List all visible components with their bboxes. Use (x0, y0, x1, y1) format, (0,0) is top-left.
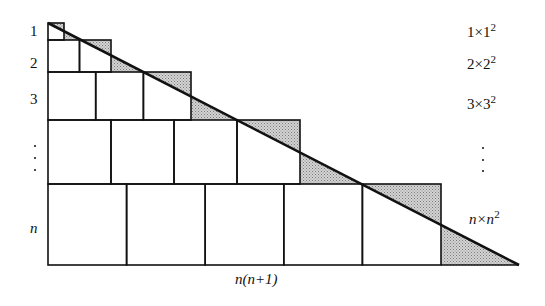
bottom-label: n(n+1) (235, 271, 278, 288)
row-n-squares (48, 184, 441, 265)
left-label-1: 1 (30, 23, 38, 39)
left-label-2: 2 (30, 55, 38, 71)
right-label-1: 1×12 (467, 21, 496, 40)
left-label-n: n (30, 220, 38, 236)
right-vertical-ellipsis (482, 147, 484, 172)
right-label-2: 2×22 (467, 53, 496, 72)
right-label-n: n×n2 (469, 208, 500, 227)
left-label-3: 3 (30, 91, 38, 107)
left-vertical-ellipsis (34, 145, 36, 171)
right-label-3: 3×32 (467, 93, 496, 112)
sum-of-cubes-diagram: 1 2 3 n 1×12 2×22 3×32 n×n2 n(n+1) (0, 0, 545, 306)
